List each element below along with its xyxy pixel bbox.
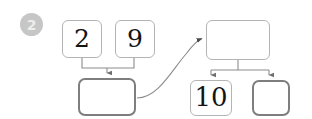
node-total-blank-top-right[interactable] — [206, 20, 270, 60]
bracket-total-to-parts — [211, 60, 269, 75]
node-addend-left-value: 2 — [74, 26, 90, 51]
node-addend-right[interactable]: 9 — [115, 20, 155, 58]
step-number-badge: 2 — [20, 13, 43, 36]
node-part-ten[interactable]: 10 — [190, 80, 232, 116]
node-part-ten-value: 10 — [194, 84, 227, 110]
node-sum-blank-left[interactable] — [78, 78, 136, 116]
diagram-canvas: 2 2 9 10 — [0, 0, 312, 119]
node-addend-left[interactable]: 2 — [62, 20, 102, 58]
node-addend-right-value: 9 — [127, 26, 143, 51]
bracket-addends-to-sum — [82, 58, 134, 73]
node-part-blank-right[interactable] — [252, 80, 290, 116]
